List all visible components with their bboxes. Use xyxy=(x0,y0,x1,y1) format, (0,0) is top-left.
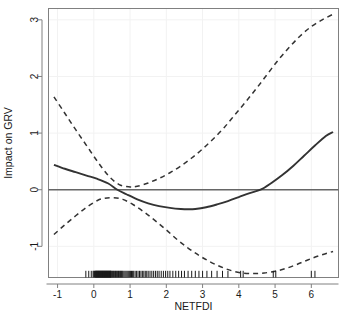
x-axis-tick-label: 2 xyxy=(164,289,170,300)
plot-panel-border xyxy=(49,9,339,278)
smooth-effect-curve xyxy=(54,132,333,209)
x-axis-title: NETFDI xyxy=(175,300,213,312)
x-axis-tick-label: -1 xyxy=(53,289,62,300)
y-axis-tick-label: -1 xyxy=(30,241,41,250)
x-axis-tick-label: 4 xyxy=(236,289,242,300)
y-axis-tick-label: 3 xyxy=(30,17,41,23)
y-axis-tick-label: 0 xyxy=(30,187,41,193)
confidence-band-curve xyxy=(54,14,333,187)
y-axis-tick-label: 2 xyxy=(30,73,41,79)
y-axis-title: Impact on GRV xyxy=(2,107,14,179)
x-axis-tick-label: 6 xyxy=(309,289,315,300)
x-axis-tick-label: 0 xyxy=(91,289,97,300)
y-axis-tick-label: 1 xyxy=(30,130,41,136)
gam-partial-effect-plot: -10123456-10123NETFDIImpact on GRV xyxy=(0,0,345,317)
x-axis-tick-label: 1 xyxy=(127,289,133,300)
chart-container: -10123456-10123NETFDIImpact on GRV xyxy=(0,0,345,317)
x-axis-tick-label: 3 xyxy=(200,289,206,300)
x-axis-tick-label: 5 xyxy=(272,289,278,300)
